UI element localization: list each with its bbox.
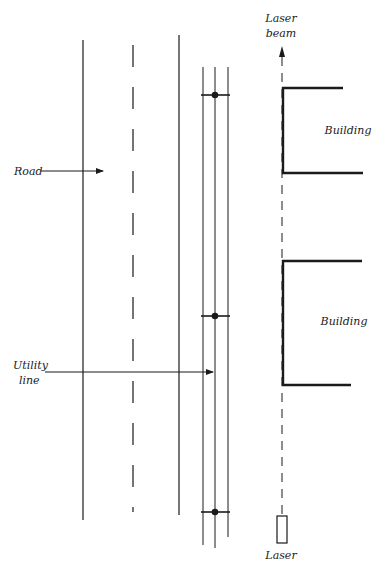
building-bottom-label: Building [320,315,368,328]
laser-beam-arrowhead-icon [279,46,285,57]
road-label: Road [13,165,43,178]
laser-beam-label: Laser [264,12,297,25]
utility-pole-2 [201,313,230,320]
utility-line-label: Utility [13,359,49,372]
utility-pole-3 [201,509,230,516]
utility-line [201,67,230,548]
road [83,35,179,520]
building-top-label: Building [324,124,372,137]
laser-beam-label-2: beam [266,27,297,40]
diagram-canvas: Laser beam Building Building Road Utilit… [0,0,375,569]
laser-device [277,516,287,543]
laser-label: Laser [264,549,297,562]
utility-line-label-2: line [19,374,40,387]
utility-pole-1 [201,92,230,99]
